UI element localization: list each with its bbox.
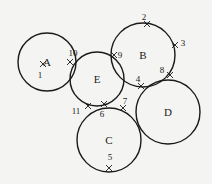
point-label: 7 [123, 96, 128, 106]
circle-label: E [94, 73, 101, 85]
circle-label: C [105, 134, 112, 146]
point-6: 6 [100, 101, 107, 119]
circle-E: E [70, 52, 124, 106]
circle-A: A [18, 33, 76, 91]
circle-label: A [43, 56, 51, 68]
point-9: 9 [111, 50, 123, 60]
point-label: 9 [118, 50, 123, 60]
point-label: 1 [38, 70, 43, 80]
circle-label: B [139, 49, 146, 61]
point-5: 5 [106, 152, 113, 171]
point-3: 3 [172, 38, 186, 48]
point-label: 6 [100, 109, 105, 119]
circle-diagram: ABCDE1234567891011 [0, 0, 212, 184]
circle-C: C [77, 108, 141, 172]
point-label: 3 [181, 38, 186, 48]
point-label: 10 [69, 48, 79, 58]
point-7: 7 [120, 96, 128, 111]
diagram-canvas: ABCDE1234567891011 [0, 0, 212, 184]
circle-label: D [164, 106, 172, 118]
point-label: 11 [72, 106, 81, 116]
circle-D: D [136, 80, 200, 144]
point-label: 8 [160, 65, 165, 75]
point-label: 2 [142, 12, 147, 22]
point-label: 4 [136, 74, 141, 84]
point-2: 2 [142, 12, 150, 27]
point-label: 5 [108, 152, 113, 162]
